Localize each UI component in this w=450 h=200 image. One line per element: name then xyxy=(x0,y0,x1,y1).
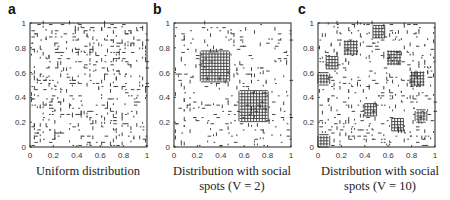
panel-c: c 00.20.40.60.8100.20.40.60.81 Distribut… xyxy=(288,0,438,200)
svg-text:0.6: 0.6 xyxy=(303,69,315,78)
svg-text:0: 0 xyxy=(310,143,315,152)
svg-text:0.4: 0.4 xyxy=(71,151,83,160)
svg-text:0.2: 0.2 xyxy=(159,118,171,127)
svg-text:0.2: 0.2 xyxy=(192,151,204,160)
svg-text:0: 0 xyxy=(166,143,171,152)
svg-text:1: 1 xyxy=(22,19,27,28)
svg-text:0: 0 xyxy=(28,151,33,160)
svg-text:0.8: 0.8 xyxy=(159,44,171,53)
svg-text:0.4: 0.4 xyxy=(15,93,27,102)
panel-b: b 00.20.40.60.8100.20.40.60.81 Distribut… xyxy=(144,0,294,200)
svg-text:0.2: 0.2 xyxy=(336,151,348,160)
svg-text:0.2: 0.2 xyxy=(303,118,315,127)
svg-text:0.8: 0.8 xyxy=(406,151,418,160)
scatter-plot-b: 00.20.40.60.8100.20.40.60.81 xyxy=(144,0,294,165)
caption: Distribution with social spots (V = 10) xyxy=(300,164,450,194)
svg-text:1: 1 xyxy=(433,151,438,160)
scatter-plot-c: 00.20.40.60.8100.20.40.60.81 xyxy=(288,0,448,165)
svg-text:0.2: 0.2 xyxy=(15,118,27,127)
svg-text:0.4: 0.4 xyxy=(215,151,227,160)
svg-text:0: 0 xyxy=(172,151,177,160)
svg-text:0.4: 0.4 xyxy=(359,151,371,160)
svg-text:0.8: 0.8 xyxy=(15,44,27,53)
scatter-plot-a: 00.20.40.60.8100.20.40.60.81 xyxy=(0,0,150,165)
svg-text:0.8: 0.8 xyxy=(118,151,130,160)
svg-text:0.6: 0.6 xyxy=(95,151,107,160)
svg-text:0: 0 xyxy=(22,143,27,152)
svg-text:0.4: 0.4 xyxy=(303,93,315,102)
svg-text:0: 0 xyxy=(316,151,321,160)
caption-line-2: spots (V = 10) xyxy=(300,179,450,194)
panel-a: a 00.20.40.60.8100.20.40.60.81 Uniform d… xyxy=(0,0,150,200)
svg-text:0.6: 0.6 xyxy=(15,69,27,78)
svg-text:0.6: 0.6 xyxy=(239,151,251,160)
svg-text:0.8: 0.8 xyxy=(262,151,274,160)
svg-text:1: 1 xyxy=(310,19,315,28)
svg-text:0.6: 0.6 xyxy=(159,69,171,78)
svg-text:0.4: 0.4 xyxy=(159,93,171,102)
svg-text:0.2: 0.2 xyxy=(48,151,60,160)
svg-text:1: 1 xyxy=(166,19,171,28)
svg-text:0.6: 0.6 xyxy=(383,151,395,160)
caption-line-1: Distribution with social xyxy=(300,164,450,179)
svg-text:0.8: 0.8 xyxy=(303,44,315,53)
